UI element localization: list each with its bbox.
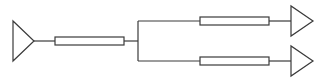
input-port-triangle xyxy=(13,21,34,61)
branch-2-port-triangle xyxy=(291,46,313,76)
branch-diagram xyxy=(0,0,325,81)
trunk-line-element xyxy=(55,37,124,45)
branch-1-port-triangle xyxy=(291,6,313,36)
branch-2-line-element xyxy=(200,57,269,65)
branch-1-line-element xyxy=(200,17,269,25)
